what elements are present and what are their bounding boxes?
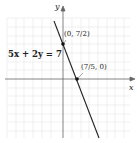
leader-b [78,73,83,78]
leader-a [64,40,66,43]
graph [0,0,137,143]
point-b-label: (7/5, 0) [81,63,107,71]
point-a-label: (0, 7/2) [64,30,90,38]
axes [5,6,135,138]
equation-label: 5x + 2y = 7 [8,49,62,59]
x-axis-label: x [129,83,134,92]
y-axis-label: y [55,2,60,11]
